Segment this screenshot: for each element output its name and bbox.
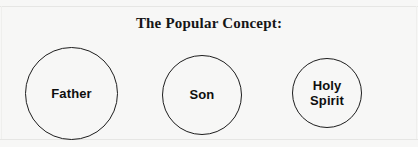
- diagram-title: The Popular Concept:: [0, 15, 418, 32]
- node-holy-spirit-label: Holy Spirit: [310, 78, 344, 109]
- frame-top-border: [0, 6, 418, 7]
- node-son: Son: [162, 55, 242, 135]
- node-son-label: Son: [190, 87, 215, 102]
- node-father-label: Father: [51, 86, 91, 101]
- node-holy-spirit: Holy Spirit: [292, 58, 362, 128]
- node-father: Father: [25, 47, 118, 140]
- diagram-canvas: The Popular Concept: Father Son Holy Spi…: [0, 0, 418, 147]
